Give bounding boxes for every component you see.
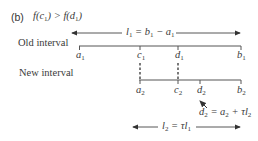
point-b2: b2 [237,84,246,97]
point-d1: d1 [175,49,184,62]
new-length-formula: l2 = τl1 [162,120,191,133]
d2-formula: d2 = a2 + τl2 [199,106,251,119]
old-interval-line [79,46,241,50]
point-c1: c1 [137,49,145,62]
new-interval-line [139,80,241,84]
point-a2: a2 [136,84,145,97]
point-c2: c2 [174,84,182,97]
new-interval-label: New interval [19,67,74,78]
old-interval-label: Old interval [18,37,68,48]
old-length-formula: l1 = b1 − a1 [126,26,175,39]
point-a1: a1 [76,49,85,62]
panel-label: (b) [11,11,24,23]
point-b1: b1 [237,49,246,62]
dashed-connectors [140,63,178,80]
point-d2: d2 [197,84,206,97]
panel-prefix: (b) [11,11,24,23]
condition-label: f(c1) > f(d1) [33,10,82,23]
